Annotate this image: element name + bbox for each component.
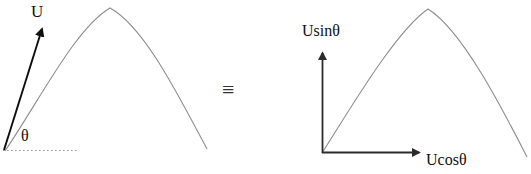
vertical-component-label-usin-theta: Usinθ <box>302 23 340 39</box>
right-trajectory-curve <box>322 9 527 157</box>
velocity-label-u: U <box>31 3 43 20</box>
angle-label-theta: θ <box>21 128 29 144</box>
right-panel-group <box>322 9 527 157</box>
horizontal-component-label-ucos-theta: Ucosθ <box>426 152 467 168</box>
diagram-canvas <box>0 0 531 174</box>
physics-diagram-projectile-velocity-components: U θ ≡ Usinθ Ucosθ <box>0 0 531 174</box>
equivalence-symbol: ≡ <box>222 79 234 101</box>
left-panel-group <box>3 8 207 151</box>
left-trajectory-curve <box>5 8 207 151</box>
